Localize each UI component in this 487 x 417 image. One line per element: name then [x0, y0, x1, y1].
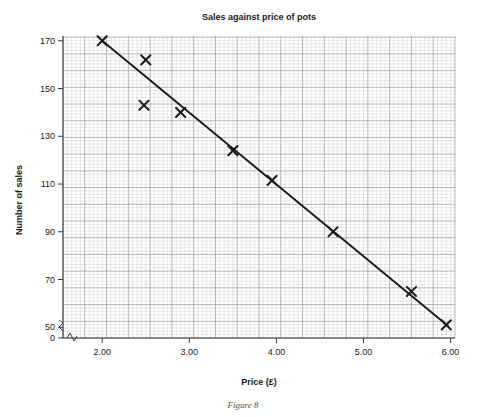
y-tick-label: 150 [40, 84, 55, 94]
y-tick-label: 110 [41, 179, 55, 189]
y-tick-label: 90 [45, 227, 55, 237]
y-tick-label-zero: 0 [50, 333, 55, 343]
scatter-chart: 1701501301109070500 2.003.004.005.006.00… [0, 0, 487, 417]
x-tick-label: 4.00 [268, 347, 286, 357]
chart-title: Sales against price of pots [202, 12, 316, 22]
x-axis-label: Price (£) [241, 377, 277, 387]
x-tick-label: 3.00 [181, 347, 199, 357]
y-axis-label: Number of sales [14, 165, 24, 235]
figure-caption: Figure 8 [227, 400, 259, 410]
x-tick-label: 5.00 [355, 347, 373, 357]
y-tick-label: 130 [40, 131, 55, 141]
y-tick-label: 70 [45, 275, 55, 285]
x-tick-label: 2.00 [93, 347, 111, 357]
chart-background [0, 0, 487, 417]
x-tick-label: 6.00 [442, 347, 460, 357]
y-tick-label: 50 [45, 322, 55, 332]
figure-container: 1701501301109070500 2.003.004.005.006.00… [0, 0, 487, 417]
y-tick-label: 170 [40, 36, 55, 46]
